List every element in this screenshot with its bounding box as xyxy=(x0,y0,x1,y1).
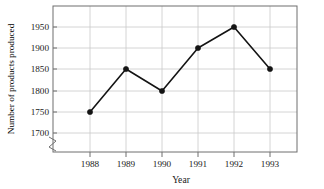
x-tick-label-1989: 1989 xyxy=(117,159,136,169)
y-tick-label-1700: 1700 xyxy=(31,128,50,138)
x-tick-label-1990: 1990 xyxy=(153,159,172,169)
y-axis-title: Number of products produced xyxy=(6,23,16,134)
x-tick-label-1993: 1993 xyxy=(261,159,280,169)
data-point-1992 xyxy=(231,24,236,29)
line-chart: 1700 1750 1800 1850 1900 1950 1988 1989 … xyxy=(0,0,324,189)
x-tick-label-1988: 1988 xyxy=(81,159,100,169)
x-axis-title: Year xyxy=(172,174,190,185)
data-point-1988 xyxy=(87,109,92,114)
data-point-1989 xyxy=(123,66,128,71)
data-point-1991 xyxy=(195,45,200,50)
x-tick-label-1992: 1992 xyxy=(225,159,244,169)
y-tick-label-1950: 1950 xyxy=(31,22,50,32)
y-tick-label-1850: 1850 xyxy=(31,64,50,74)
y-tick-label-1800: 1800 xyxy=(31,86,50,96)
chart-figure: 1700 1750 1800 1850 1900 1950 1988 1989 … xyxy=(0,0,324,189)
x-tick-label-1991: 1991 xyxy=(189,159,208,169)
y-tick-label-1750: 1750 xyxy=(31,107,50,117)
y-tick-label-1900: 1900 xyxy=(31,43,50,53)
data-point-1993 xyxy=(267,66,272,71)
data-point-1990 xyxy=(159,88,164,93)
